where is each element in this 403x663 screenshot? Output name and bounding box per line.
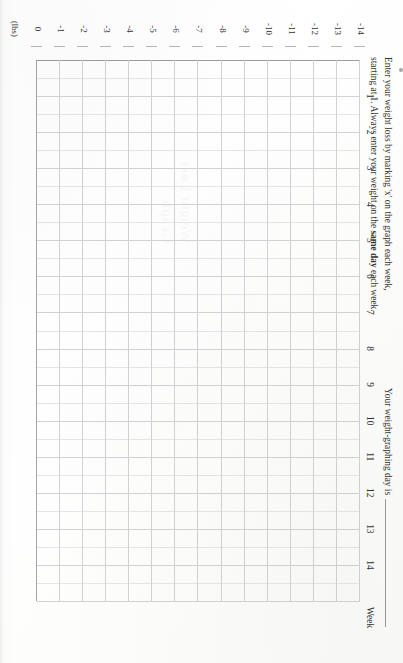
lbs-tick--1 xyxy=(54,46,65,47)
lbs-tick--10 xyxy=(262,46,273,47)
lbs-tick--5 xyxy=(146,46,157,47)
gridline-lbs--8 xyxy=(221,60,222,601)
lbs-tick--8 xyxy=(216,46,227,47)
week-tick-label-4: 4 xyxy=(365,189,375,219)
gridline-week-minor-0 xyxy=(37,78,360,79)
gridline-week-minor-5 xyxy=(37,258,360,259)
lbs-tick-label--9: -9 xyxy=(241,16,251,42)
weight-loss-graph: 0-1-2-3-4-5-6-7-8-9-10-11-12-13-14(lbs) … xyxy=(37,60,360,601)
weight-graphing-day-field[interactable]: Your weight-graphing day is xyxy=(383,388,393,660)
gridline-lbs--9 xyxy=(244,60,245,601)
lbs-tick--4 xyxy=(123,46,134,47)
lbs-tick-label--8: -8 xyxy=(218,16,228,42)
lbs-tick-label--10: -10 xyxy=(264,16,274,42)
gridline-week-4 xyxy=(37,204,360,205)
gridline-lbs--3 xyxy=(105,60,106,601)
week-tick-label-14: 14 xyxy=(365,550,375,580)
gridline-lbs--1 xyxy=(59,60,60,601)
lbs-tick-label--13: -13 xyxy=(333,16,343,42)
gridline-week-minor-14 xyxy=(37,583,360,584)
lbs-tick-label--2: -2 xyxy=(79,16,89,42)
week-tick-label-3: 3 xyxy=(365,153,375,183)
instructions-line-1: Enter your weight loss by marking 'x' on… xyxy=(381,57,395,387)
week-axis-title: Week xyxy=(365,607,375,628)
gridline-week-3 xyxy=(37,168,360,169)
week-tick-label-8: 8 xyxy=(365,334,375,364)
week-tick-label-11: 11 xyxy=(365,442,375,472)
weight-graphing-day-blank-rule[interactable] xyxy=(385,499,393,627)
week-tick-label-7: 7 xyxy=(365,297,375,327)
gridline-week-minor-1 xyxy=(37,114,360,115)
lbs-tick--9 xyxy=(239,46,250,47)
lbs-tick-label--5: -5 xyxy=(148,16,158,42)
gridline-lbs--2 xyxy=(82,60,83,601)
gridline-week-13 xyxy=(37,529,360,530)
lbs-tick-label--11: -11 xyxy=(287,16,297,42)
gridline-week-minor-3 xyxy=(37,186,360,187)
lbs-tick--14 xyxy=(354,46,365,47)
gridline-lbs--6 xyxy=(174,60,175,601)
gridline-week-minor-6 xyxy=(37,294,360,295)
gridline-week-1 xyxy=(37,96,360,97)
lbs-tick--3 xyxy=(100,46,111,47)
lbs-tick--2 xyxy=(77,46,88,47)
lbs-tick--13 xyxy=(331,46,342,47)
gridline-week-minor-4 xyxy=(37,222,360,223)
lbs-tick-label-0: 0 xyxy=(33,16,43,42)
scan-edge-shadow xyxy=(0,0,3,663)
gridline-week-7 xyxy=(37,312,360,313)
instructions-line-1-text: Enter your weight loss by marking 'x' on… xyxy=(383,57,393,291)
gridline-week-10 xyxy=(37,421,360,422)
week-tick-label-9: 9 xyxy=(365,370,375,400)
lbs-tick--12 xyxy=(308,46,319,47)
lbs-tick-0 xyxy=(31,46,42,47)
gridline-week-11 xyxy=(37,457,360,458)
lbs-tick-label--4: -4 xyxy=(125,16,135,42)
weight-graphing-day-label: Your weight-graphing day is xyxy=(383,388,393,495)
week-tick-label-13: 13 xyxy=(365,514,375,544)
gridline-week-minor-11 xyxy=(37,475,360,476)
gridline-week-6 xyxy=(37,276,360,277)
gridline-lbs--7 xyxy=(198,60,199,601)
lbs-tick-label--6: -6 xyxy=(171,16,181,42)
gridline-week-15 xyxy=(37,601,360,602)
week-tick-label-10: 10 xyxy=(365,406,375,436)
week-tick-label-2: 2 xyxy=(365,117,375,147)
gridline-week-minor-9 xyxy=(37,403,360,404)
scanned-page: Weight Loss Graph Enter your weight loss… xyxy=(0,0,403,663)
gridline-week-8 xyxy=(37,349,360,350)
lbs-axis-unit-label: (lbs) xyxy=(10,21,20,37)
gridline-week-5 xyxy=(37,240,360,241)
gridline-week-12 xyxy=(37,493,360,494)
gridline-lbs--13 xyxy=(336,60,337,601)
lbs-tick--6 xyxy=(169,46,180,47)
week-tick-label-5: 5 xyxy=(365,225,375,255)
graph-plot-area[interactable] xyxy=(37,60,360,601)
gridline-lbs--10 xyxy=(267,60,268,601)
rotated-sheet-content: Weight Loss Graph Enter your weight loss… xyxy=(0,0,403,663)
gridline-lbs--11 xyxy=(290,60,291,601)
lbs-tick-label--7: -7 xyxy=(195,16,205,42)
gridline-lbs-baseline xyxy=(36,60,37,601)
scan-artifact-speck xyxy=(399,68,403,72)
gridline-week-9 xyxy=(37,385,360,386)
gridline-week-minor-7 xyxy=(37,331,360,332)
lbs-tick-label--3: -3 xyxy=(102,16,112,42)
week-tick-label-6: 6 xyxy=(365,261,375,291)
gridline-week-minor-8 xyxy=(37,367,360,368)
gridline-week-minor-10 xyxy=(37,439,360,440)
lbs-tick-label--12: -12 xyxy=(310,16,320,42)
lbs-tick--11 xyxy=(285,46,296,47)
gridline-lbs--12 xyxy=(313,60,314,601)
gridline-week-0 xyxy=(37,60,360,61)
lbs-tick-label--1: -1 xyxy=(56,16,66,42)
week-tick-label-12: 12 xyxy=(365,478,375,508)
gridline-week-minor-2 xyxy=(37,150,360,151)
gridline-lbs--5 xyxy=(151,60,152,601)
gridline-week-14 xyxy=(37,565,360,566)
gridline-week-minor-13 xyxy=(37,547,360,548)
gridline-week-2 xyxy=(37,132,360,133)
lbs-tick-label--14: -14 xyxy=(356,16,366,42)
lbs-tick--7 xyxy=(193,46,204,47)
gridline-lbs--4 xyxy=(128,60,129,601)
